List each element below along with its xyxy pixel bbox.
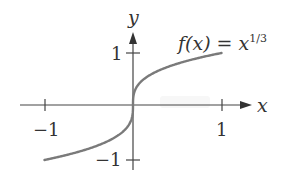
function-label-exponent: 1/3 — [249, 32, 267, 45]
x-tick-label-neg1: −1 — [33, 119, 60, 140]
function-label: f(x) = x1/3 — [176, 32, 267, 54]
x-axis-arrow-icon — [240, 101, 252, 109]
svg-text:f(x) = x1/3: f(x) = x1/3 — [176, 32, 267, 54]
x-axis-label: x — [257, 94, 268, 116]
cube-root-plot: y x −1 1 1 −1 f(x) = x1/3 — [0, 0, 288, 175]
function-label-main: f(x) = x — [176, 32, 250, 54]
y-axis-label: y — [127, 6, 139, 28]
y-tick-label-pos1: 1 — [111, 43, 122, 64]
y-tick-label-neg1: −1 — [95, 149, 122, 170]
x-axis — [20, 99, 252, 111]
x-tick-label-pos1: 1 — [216, 119, 227, 140]
y-axis-arrow-icon — [129, 32, 137, 44]
